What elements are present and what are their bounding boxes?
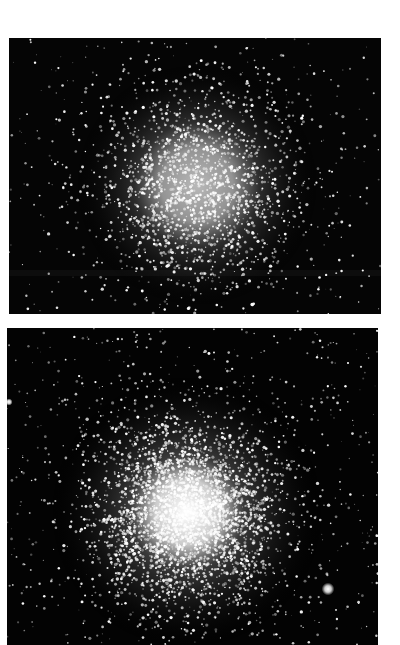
- globular-cluster-photo-bottom: [7, 328, 378, 645]
- star-field-top: [9, 38, 381, 314]
- star-field-bottom: [7, 328, 378, 645]
- globular-cluster-photo-top: [9, 38, 381, 314]
